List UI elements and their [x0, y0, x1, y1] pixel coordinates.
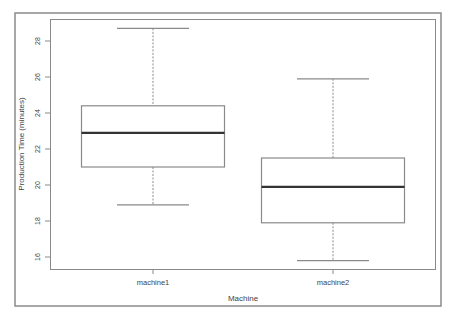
y-tick-label: 26	[34, 73, 41, 81]
box-machine1	[82, 28, 225, 204]
y-tick-label: 28	[34, 37, 41, 45]
boxplot-chart: 16182022242628 machine1machine2 Producti…	[0, 0, 450, 318]
x-axis-label: Machine	[228, 294, 259, 303]
iqr-box	[262, 158, 405, 223]
x-tick-label: machine1	[137, 278, 170, 287]
x-axis: machine1machine2	[137, 270, 350, 288]
outer-frame	[15, 13, 441, 306]
x-tick-label: machine2	[317, 278, 350, 287]
y-tick-label: 16	[34, 253, 41, 261]
y-tick-label: 20	[34, 181, 41, 189]
y-tick-label: 24	[34, 109, 41, 117]
y-axis: 16182022242628	[34, 37, 51, 261]
plot-area	[51, 20, 436, 270]
iqr-box	[82, 106, 225, 167]
boxes	[82, 28, 405, 260]
box-machine2	[262, 79, 405, 261]
y-tick-label: 22	[34, 145, 41, 153]
y-axis-label: Production Time (minutes)	[17, 97, 26, 191]
y-tick-label: 18	[34, 217, 41, 225]
